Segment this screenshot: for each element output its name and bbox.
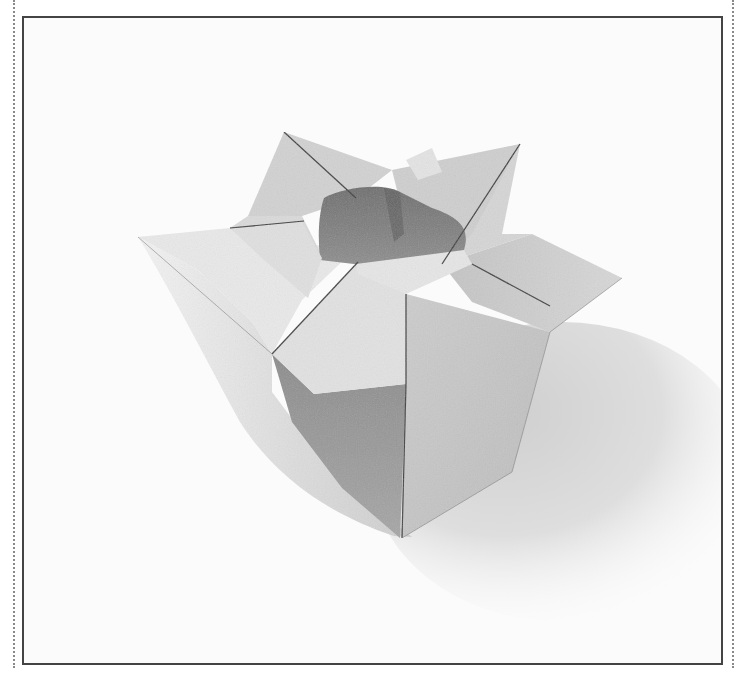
dotted-rule-left <box>13 0 15 668</box>
photo-frame: Black-and-white photo of a folded paper … <box>22 16 723 665</box>
dotted-rule-right <box>732 0 734 668</box>
origami-vase-photo <box>24 18 721 663</box>
